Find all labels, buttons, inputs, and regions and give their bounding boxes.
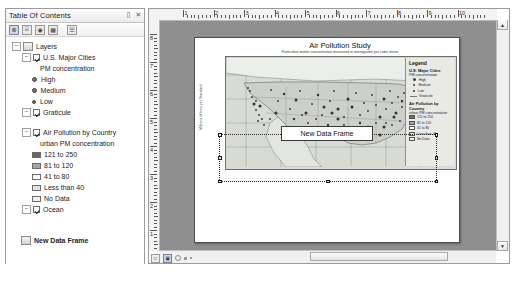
ruler-minor-tick bbox=[154, 188, 158, 189]
pin-icon[interactable]: ▯ bbox=[125, 11, 132, 19]
expander-icon[interactable]: − bbox=[12, 42, 21, 51]
scroll-up-arrow[interactable]: ▲ bbox=[497, 20, 508, 30]
legend-label: Low bbox=[418, 89, 424, 93]
ruler-minor-tick bbox=[154, 223, 157, 224]
toc-node-layers[interactable]: − Layers bbox=[6, 41, 144, 52]
ruler-major-tick bbox=[183, 10, 184, 17]
ruler-major-tick bbox=[150, 146, 157, 147]
toc-range-81-120[interactable]: 81 to 120 bbox=[6, 160, 144, 171]
sidebar-item-new-data-frame[interactable]: New Data Frame bbox=[6, 235, 144, 246]
list-by-selection-icon[interactable]: ▦ bbox=[48, 25, 58, 35]
ruler-minor-tick bbox=[154, 192, 157, 193]
resize-handle[interactable] bbox=[218, 133, 222, 137]
resize-handle[interactable] bbox=[435, 180, 439, 184]
sidebar-item-us-major-cities[interactable]: − U.S. Major Cities bbox=[6, 52, 144, 63]
layers-icon bbox=[23, 42, 33, 51]
layout-canvas[interactable]: Millions of tons per Standard Air Pollut… bbox=[160, 21, 496, 250]
ruler-minor-tick bbox=[154, 157, 157, 158]
ruler-minor-tick bbox=[255, 15, 256, 18]
layer-checkbox[interactable] bbox=[33, 129, 40, 136]
layer-checkbox[interactable] bbox=[33, 109, 40, 116]
ruler-major-tick bbox=[305, 10, 306, 17]
horizontal-ruler[interactable]: 12345678910 bbox=[159, 9, 497, 21]
sidebar-item-air-pollution-by-country[interactable]: − Air Pollution by Country bbox=[6, 127, 144, 138]
sidebar-item-ocean[interactable]: − Ocean bbox=[6, 204, 144, 215]
ruler-minor-tick bbox=[154, 101, 157, 102]
page-sheet[interactable]: Millions of tons per Standard Air Pollut… bbox=[194, 37, 460, 243]
color-swatch bbox=[409, 126, 415, 130]
ruler-minor-tick bbox=[154, 55, 157, 56]
toc-title-label: Table Of Contents bbox=[9, 11, 71, 20]
list-by-drawing-order-icon[interactable]: ≣ bbox=[9, 25, 19, 35]
ruler-minor-tick bbox=[154, 87, 157, 88]
ruler-minor-tick bbox=[328, 15, 329, 18]
expander-icon[interactable]: − bbox=[22, 205, 31, 214]
new-data-frame-label[interactable]: New Data Frame bbox=[281, 126, 373, 141]
expander-icon[interactable]: − bbox=[22, 108, 31, 117]
toc-label: New Data Frame bbox=[34, 237, 88, 244]
list-by-visibility-icon[interactable]: ◉ bbox=[35, 25, 45, 35]
legend-label: Graticule bbox=[419, 94, 433, 98]
resize-handle[interactable] bbox=[435, 156, 439, 160]
toc-class-medium[interactable]: Medium bbox=[6, 85, 144, 96]
toc-tree[interactable]: − Layers − U.S. Major Cities PM concentr… bbox=[6, 37, 144, 267]
ruler-minor-tick bbox=[154, 97, 157, 98]
layout-view-icon[interactable]: ▣ bbox=[163, 254, 172, 263]
toc-range-no-data[interactable]: No Data bbox=[6, 193, 144, 204]
layer-checkbox[interactable] bbox=[33, 206, 40, 213]
toc-range-less-than-40[interactable]: Less than 40 bbox=[6, 182, 144, 193]
ruler-major-tick bbox=[150, 90, 157, 91]
expander-icon[interactable]: − bbox=[22, 53, 31, 62]
scroll-down-arrow[interactable]: ▼ bbox=[497, 241, 508, 251]
view-mode-statusbar: □ ▣ bbox=[148, 252, 510, 264]
legend-label: High bbox=[419, 78, 426, 82]
expander-icon[interactable]: − bbox=[22, 128, 31, 137]
toc-label: 41 to 80 bbox=[44, 173, 69, 180]
toc-range-41-80[interactable]: 41 to 80 bbox=[6, 171, 144, 182]
expander-icon bbox=[12, 237, 19, 244]
resize-handle[interactable] bbox=[326, 180, 330, 184]
ruler-tick-label: 8 bbox=[150, 35, 153, 41]
ruler-minor-tick bbox=[154, 216, 158, 217]
layout-view: 12345678910 87654321 Millions of tons pe… bbox=[148, 8, 510, 264]
map-subtitle[interactable]: Particulate matter concentration measure… bbox=[215, 50, 465, 54]
resize-handle[interactable] bbox=[435, 133, 439, 137]
options-icon[interactable]: ☰ bbox=[67, 25, 77, 35]
ruler-minor-tick bbox=[154, 248, 157, 249]
refresh-icon[interactable] bbox=[175, 255, 181, 261]
toc-range-121-250[interactable]: 121 to 250 bbox=[6, 149, 144, 160]
stop-drawing-icon[interactable] bbox=[190, 257, 192, 259]
ruler-minor-tick bbox=[154, 181, 157, 182]
ruler-minor-tick bbox=[393, 15, 394, 18]
toc-class-low[interactable]: Low bbox=[6, 96, 144, 107]
ruler-minor-tick bbox=[252, 15, 253, 18]
line-symbol-icon bbox=[410, 96, 417, 97]
selection-box[interactable] bbox=[219, 134, 437, 182]
pause-drawing-icon[interactable] bbox=[184, 257, 187, 260]
ruler-major-tick bbox=[366, 10, 367, 17]
sidebar-item-graticule[interactable]: − Graticule bbox=[6, 107, 144, 118]
data-view-icon[interactable]: □ bbox=[151, 254, 160, 263]
toc-label: High bbox=[41, 76, 55, 83]
ruler-minor-tick bbox=[154, 48, 158, 49]
layer-checkbox[interactable] bbox=[33, 54, 40, 61]
resize-handle[interactable] bbox=[218, 156, 222, 160]
toc-class-high[interactable]: High bbox=[6, 74, 144, 85]
vertical-scrollbar[interactable]: ▲ ▼ bbox=[496, 20, 509, 251]
ruler-minor-tick bbox=[154, 241, 157, 242]
ruler-minor-tick bbox=[320, 15, 321, 19]
resize-handle[interactable] bbox=[218, 180, 222, 184]
ruler-minor-tick bbox=[202, 15, 203, 18]
ruler-minor-tick bbox=[259, 15, 260, 19]
ruler-minor-tick bbox=[154, 129, 157, 130]
ruler-minor-tick bbox=[154, 122, 157, 123]
map-title[interactable]: Air Pollution Study bbox=[225, 41, 455, 50]
list-by-source-icon[interactable]: ⌸ bbox=[22, 25, 32, 35]
ruler-minor-tick bbox=[154, 104, 158, 105]
ruler-minor-tick bbox=[154, 213, 157, 214]
vertical-ruler[interactable]: 87654321 bbox=[149, 20, 160, 251]
ruler-minor-tick bbox=[381, 15, 382, 19]
ruler-minor-tick bbox=[332, 15, 333, 18]
ruler-minor-tick bbox=[248, 15, 249, 18]
close-icon[interactable]: ✕ bbox=[135, 11, 142, 19]
